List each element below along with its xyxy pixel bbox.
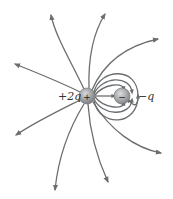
positive-charge-label: +2q: [58, 90, 81, 103]
negative-charge: −: [114, 88, 130, 104]
field-diagram: + +2q − −q: [0, 0, 173, 199]
negative-charge-label: −q: [138, 90, 154, 103]
field-line: [51, 15, 84, 89]
field-line: [15, 64, 80, 92]
positive-charge: +: [79, 88, 95, 104]
plus-sign: +: [83, 92, 91, 102]
field-line: [88, 104, 108, 182]
field-line: [89, 14, 105, 88]
field-line: [55, 104, 84, 190]
minus-sign: −: [118, 92, 126, 102]
